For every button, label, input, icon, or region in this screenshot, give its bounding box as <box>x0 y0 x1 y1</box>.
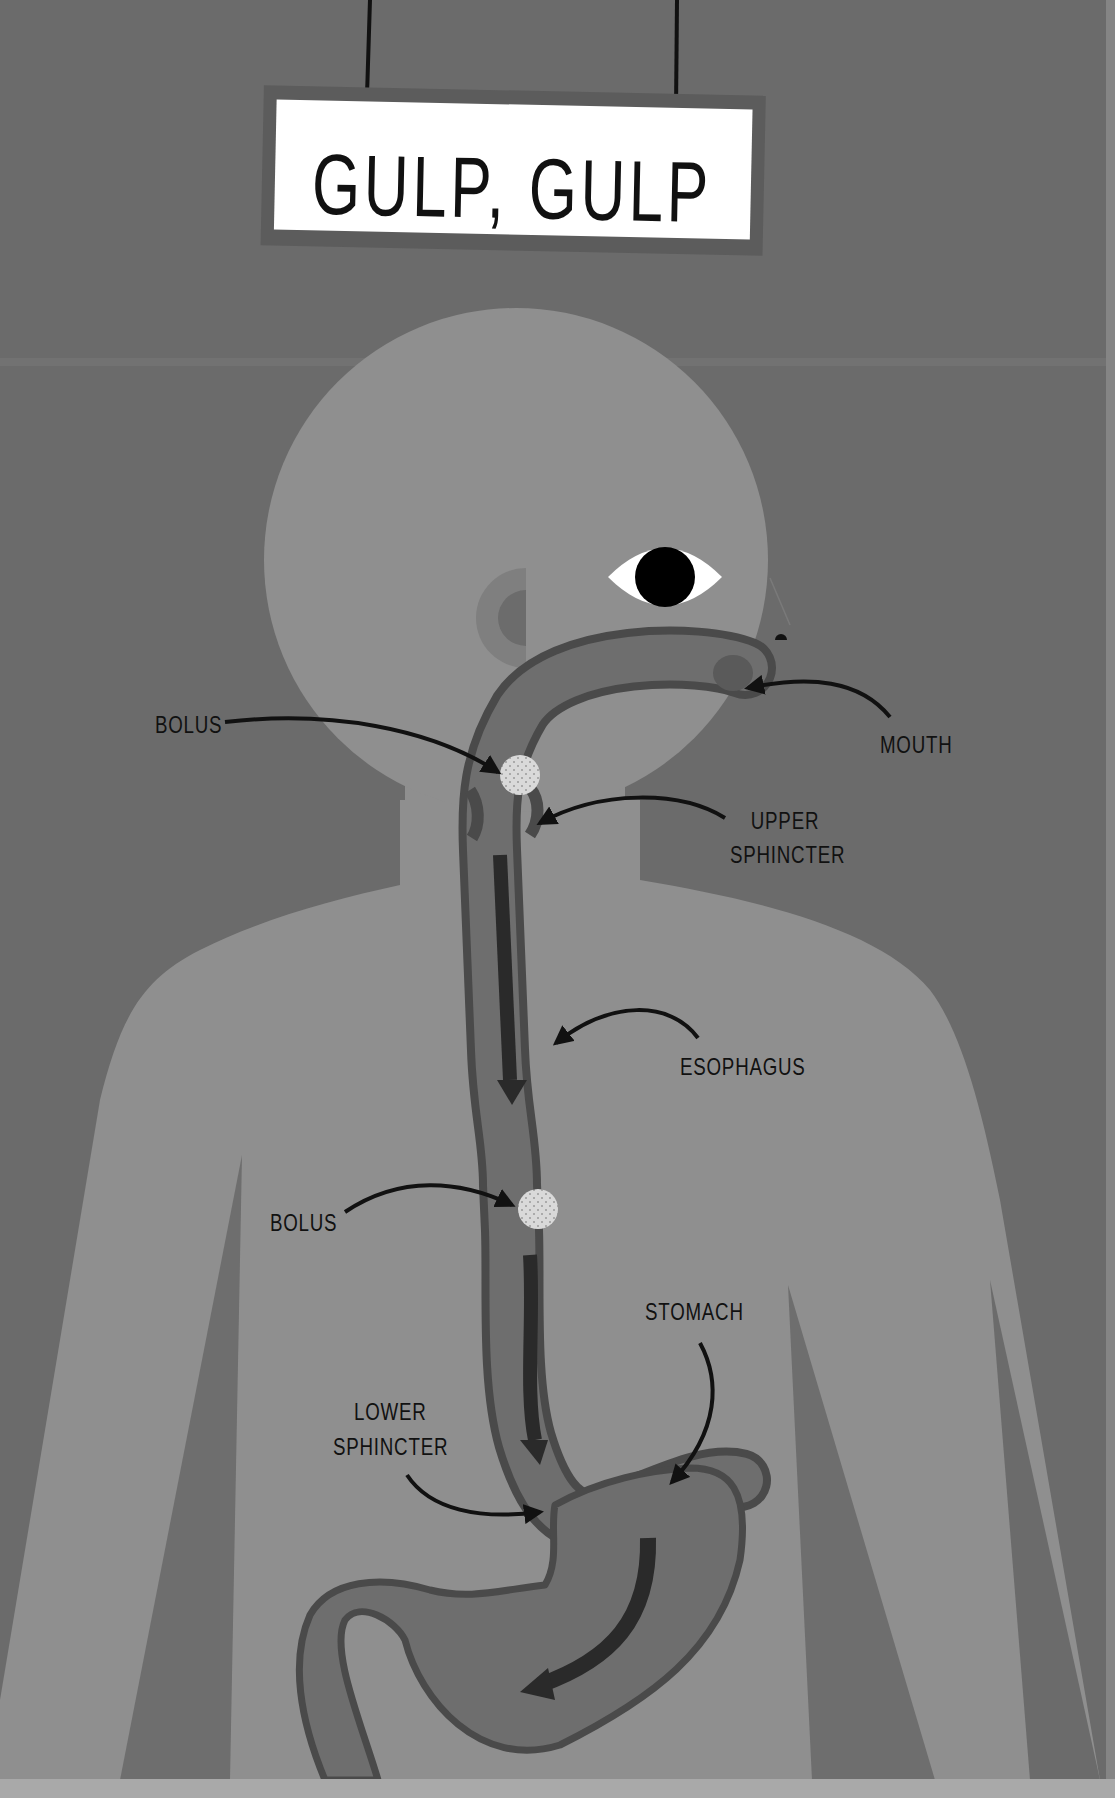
label-bolus-lower: BOLUS <box>270 1206 337 1240</box>
label-mouth: MOUTH <box>880 728 953 762</box>
label-lower-sphincter-line2: SPHINCTER <box>333 1430 448 1464</box>
page-edge <box>1106 0 1115 1798</box>
bottom-strip <box>0 1779 1115 1798</box>
label-lower-sphincter-line1: LOWER <box>354 1395 427 1429</box>
flow-arrow-lower <box>530 1255 535 1440</box>
sign-title: GULP, GULP <box>338 114 686 261</box>
label-upper-sphincter-line1: UPPER <box>746 804 824 838</box>
label-stomach: STOMACH <box>645 1295 744 1329</box>
label-bolus-upper: BOLUS <box>155 708 222 742</box>
label-esophagus: ESOPHAGUS <box>680 1050 806 1084</box>
swallowing-diagram <box>0 0 1115 1798</box>
flow-arrow-esophagus <box>500 855 510 1080</box>
bolus-lower <box>518 1189 558 1229</box>
sign-wire-right <box>676 0 677 110</box>
mouth-opening <box>713 655 753 691</box>
bolus-upper <box>500 755 540 795</box>
label-upper-sphincter-line2: SPHINCTER <box>730 838 845 872</box>
